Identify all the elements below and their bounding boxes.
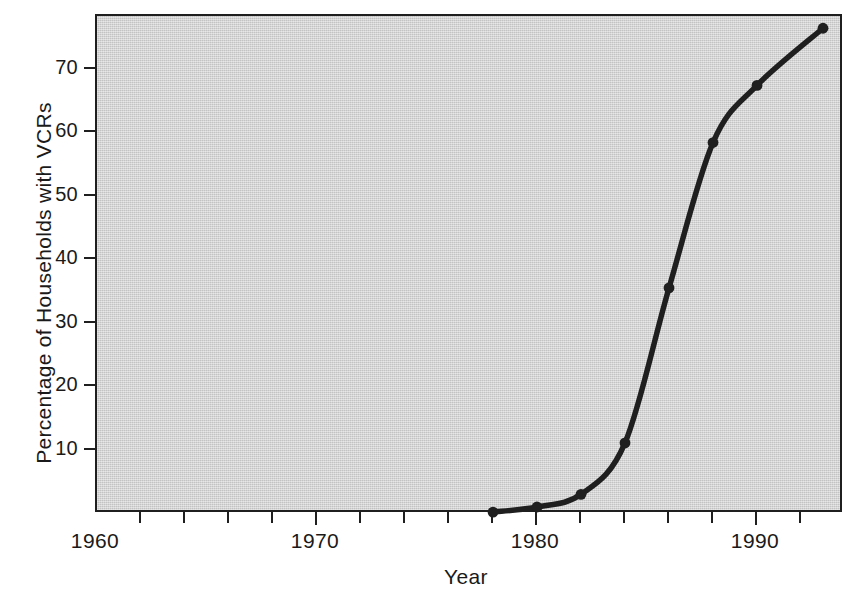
x-tick-1972: [359, 512, 361, 523]
data-point-1993: [818, 23, 829, 34]
y-tick-10: [84, 448, 95, 450]
x-tick-1962: [139, 512, 141, 523]
y-tick-50: [84, 194, 95, 196]
x-tick-label-1980: 1980: [480, 529, 590, 553]
data-point-1988: [708, 137, 719, 148]
data-point-1984: [620, 437, 631, 448]
x-tick-1984: [623, 512, 625, 523]
x-tick-1966: [227, 512, 229, 523]
vcr-adoption-line-chart: 10203040506070 1960197019801990 Year Per…: [0, 0, 852, 598]
x-tick-1976: [447, 512, 449, 523]
data-point-1982: [576, 489, 587, 500]
x-axis-title: Year: [0, 565, 852, 589]
data-point-1978: [488, 507, 499, 518]
x-tick-1990: [755, 512, 757, 525]
x-tick-1986: [667, 512, 669, 523]
data-point-1990: [752, 80, 763, 91]
data-point-1980: [532, 502, 543, 513]
x-tick-1964: [183, 512, 185, 523]
y-tick-40: [84, 257, 95, 259]
data-curve: [97, 16, 844, 514]
data-point-1986: [664, 283, 675, 294]
data-point-markers: [488, 23, 829, 518]
y-tick-70: [84, 67, 95, 69]
x-tick-1978: [491, 512, 493, 523]
plot-area: [95, 14, 842, 512]
x-tick-1982: [579, 512, 581, 523]
x-tick-1968: [271, 512, 273, 523]
x-tick-label-1960: 1960: [40, 529, 150, 553]
x-tick-1970: [315, 512, 317, 525]
y-tick-20: [84, 384, 95, 386]
x-axis-title-text: Year: [444, 565, 488, 589]
y-axis-title: Percentage of Households with VCRs: [32, 73, 56, 493]
x-tick-1980: [535, 512, 537, 525]
x-tick-1992: [799, 512, 801, 523]
x-tick-1974: [403, 512, 405, 523]
curve-path: [493, 28, 823, 512]
y-tick-30: [84, 321, 95, 323]
y-tick-60: [84, 130, 95, 132]
x-tick-1988: [711, 512, 713, 523]
x-tick-label-1970: 1970: [260, 529, 370, 553]
x-tick-label-1990: 1990: [700, 529, 810, 553]
